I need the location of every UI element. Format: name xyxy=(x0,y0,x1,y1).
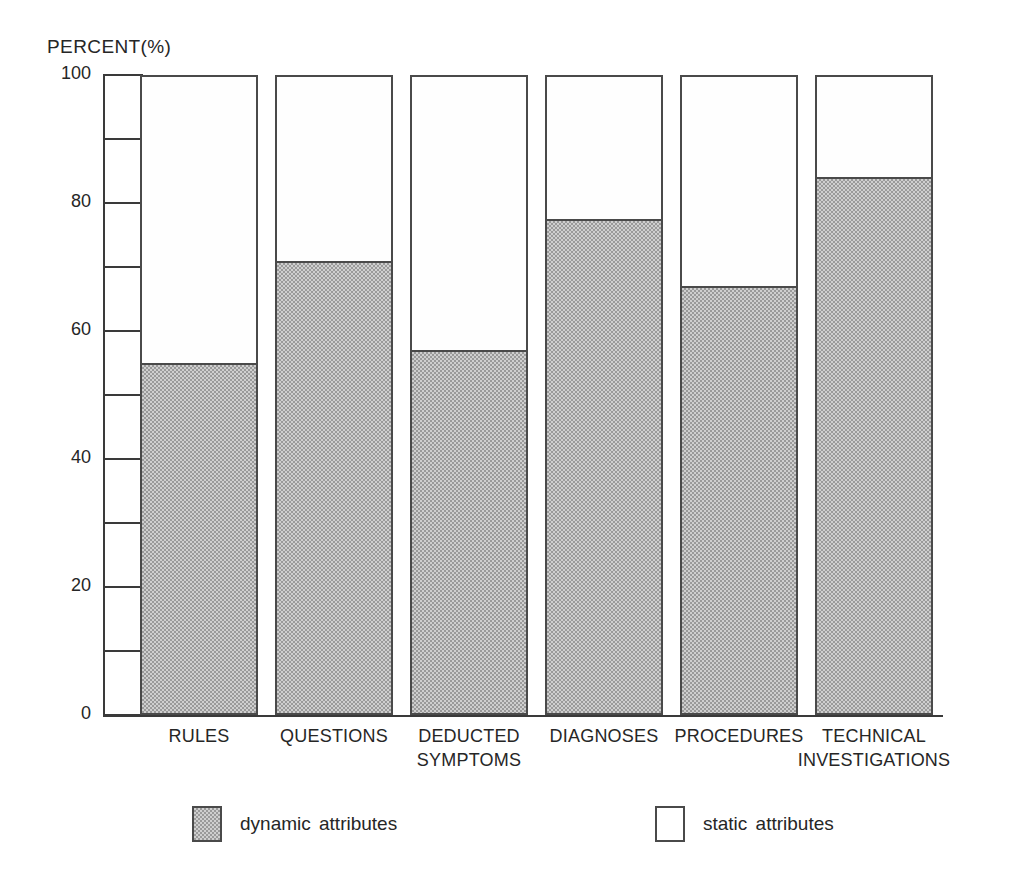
legend-entry-static-attributes: static attributes xyxy=(655,806,834,842)
y-tick-label-40: 40 xyxy=(31,447,91,468)
y-tick-minor-10 xyxy=(103,650,143,652)
chart-legend: dynamic attributes static attributes xyxy=(0,806,1028,856)
bar-group[interactable] xyxy=(680,75,798,715)
bar-group[interactable] xyxy=(410,75,528,715)
y-tick-minor-30 xyxy=(103,522,143,524)
x-axis-label-line: SYMPTOMS xyxy=(389,748,549,772)
stacked-bar-chart: PERCENT(%) 020406080100 RULESQUESTIONSDE… xyxy=(0,0,1028,884)
y-tick-major-0 xyxy=(103,714,143,716)
bar-group[interactable] xyxy=(545,75,663,715)
y-tick-major-40 xyxy=(103,458,143,460)
x-axis-label-line: TECHNICAL xyxy=(794,724,954,748)
bar-group[interactable] xyxy=(275,75,393,715)
x-axis-label-line: INVESTIGATIONS xyxy=(794,748,954,772)
y-tick-minor-70 xyxy=(103,266,143,268)
y-tick-label-100: 100 xyxy=(31,63,91,84)
y-tick-major-100 xyxy=(103,74,143,76)
bar-segment-dynamic[interactable] xyxy=(410,350,528,715)
y-axis-tick-labels: 020406080100 xyxy=(31,75,91,715)
x-axis-line xyxy=(103,715,943,717)
bar-group[interactable] xyxy=(140,75,258,715)
x-axis-category-labels: RULESQUESTIONSDEDUCTEDSYMPTOMSDIAGNOSESP… xyxy=(103,724,943,784)
y-tick-major-20 xyxy=(103,586,143,588)
legend-label-static: static attributes xyxy=(703,813,834,835)
y-tick-label-60: 60 xyxy=(31,319,91,340)
legend-swatch-static-icon xyxy=(655,806,685,842)
x-axis-label: TECHNICALINVESTIGATIONS xyxy=(794,724,954,772)
bar-group[interactable] xyxy=(815,75,933,715)
y-axis-title: PERCENT(%) xyxy=(47,36,171,58)
bar-segment-dynamic[interactable] xyxy=(545,219,663,715)
y-tick-major-80 xyxy=(103,202,143,204)
legend-label-dynamic: dynamic attributes xyxy=(240,813,397,835)
y-tick-minor-50 xyxy=(103,394,143,396)
legend-swatch-dynamic-icon xyxy=(192,806,222,842)
bar-segment-dynamic[interactable] xyxy=(275,261,393,715)
y-tick-label-80: 80 xyxy=(31,191,91,212)
y-tick-major-60 xyxy=(103,330,143,332)
bar-segment-dynamic[interactable] xyxy=(680,286,798,715)
legend-entry-dynamic-attributes: dynamic attributes xyxy=(192,806,397,842)
bar-segment-dynamic[interactable] xyxy=(815,177,933,715)
y-tick-label-0: 0 xyxy=(31,703,91,724)
plot-area: 020406080100 xyxy=(103,75,943,715)
bar-segment-dynamic[interactable] xyxy=(140,363,258,715)
y-tick-label-20: 20 xyxy=(31,575,91,596)
y-tick-minor-90 xyxy=(103,138,143,140)
